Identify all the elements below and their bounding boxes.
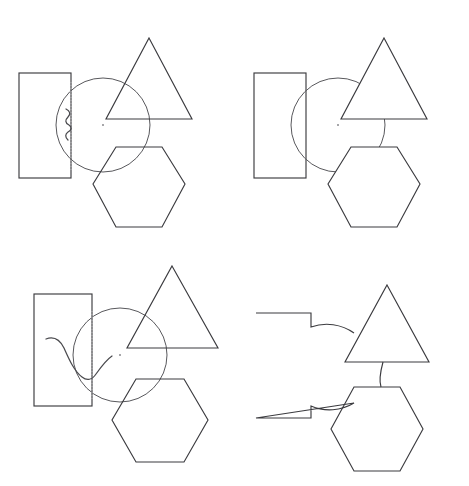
hexagon-shape [331, 387, 423, 471]
panel-top-left-canvas [0, 0, 234, 243]
rectangle-shape-notched [256, 313, 354, 418]
rectangle-shape [254, 73, 306, 178]
hexagon-shape [328, 147, 420, 227]
panel-bottom-right-canvas [235, 243, 469, 486]
panel-top-right [235, 0, 469, 243]
panel-bottom-right [235, 243, 469, 486]
small-squiggle-mark [66, 109, 71, 140]
hexagon-shape [112, 379, 208, 462]
triangle-shape [106, 38, 192, 119]
connector-segment [380, 362, 383, 387]
large-squiggle-mark [46, 338, 112, 379]
triangle-shape [341, 38, 427, 119]
circle-center-dot [337, 124, 339, 126]
triangle-shape [345, 285, 429, 362]
triangle-shape [127, 266, 218, 348]
hexagon-shape [93, 147, 185, 227]
rectangle-shape [34, 294, 92, 406]
panel-bottom-left [0, 243, 234, 486]
rectangle-shape [19, 73, 71, 178]
circle-center-dot [119, 354, 121, 356]
panel-top-right-canvas [235, 0, 469, 243]
panel-bottom-left-canvas [0, 243, 234, 486]
panel-top-left [0, 0, 234, 243]
figure-grid [0, 0, 469, 486]
circle-center-dot [102, 124, 104, 126]
